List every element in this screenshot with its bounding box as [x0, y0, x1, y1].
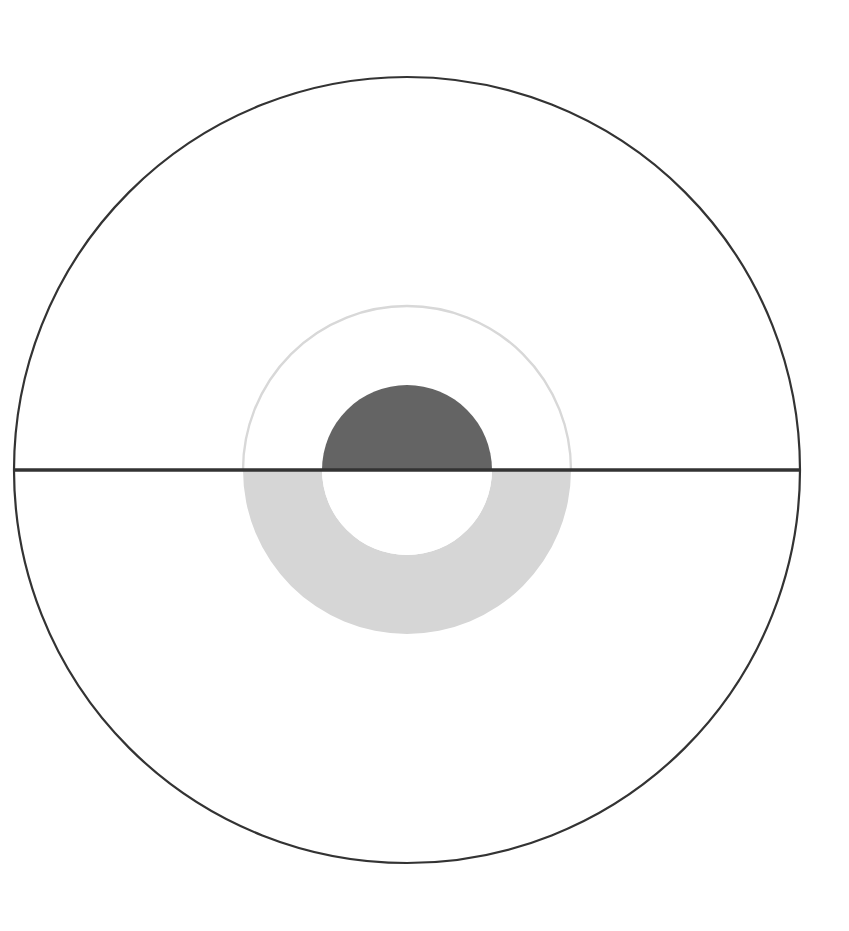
concentric-circles-svg — [0, 0, 849, 931]
diagram-canvas — [0, 0, 849, 931]
